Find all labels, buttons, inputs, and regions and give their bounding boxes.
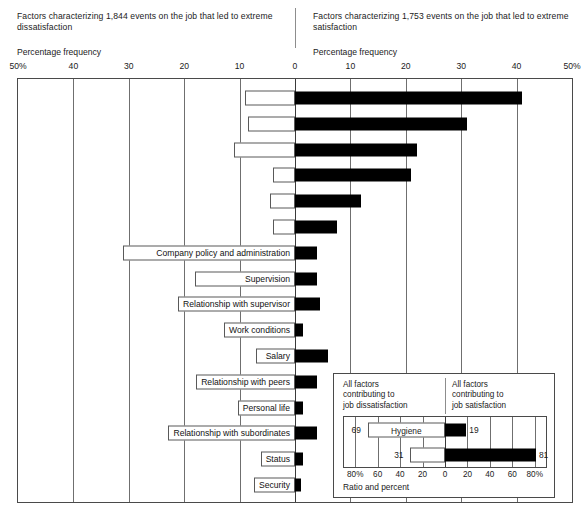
x-tick-30: 30 [456, 61, 466, 71]
x-tick-10: 10 [346, 61, 356, 71]
inset-x-tick-60: 60 [508, 470, 517, 479]
satisfaction-bar [295, 220, 337, 233]
dissatisfaction-bar: Relationship with subordinates [168, 426, 295, 441]
category-label: Company policy and administration [156, 248, 290, 257]
satisfaction-bar [295, 117, 467, 130]
header-divider [295, 8, 296, 48]
inset-summary-chart: All factors contributing to job dissatis… [333, 373, 555, 498]
chart-row: Work conditions [18, 317, 572, 343]
dissatisfaction-bar [270, 194, 295, 209]
inset-x-tick-60: 60 [373, 470, 382, 479]
chart-row: Relationship with supervisor [18, 292, 572, 318]
chart-row [18, 137, 572, 163]
inset-dissatisfaction-value: 31 [394, 450, 403, 460]
satisfaction-bar [295, 350, 328, 363]
x-tick-50%: 50% [9, 61, 26, 71]
category-label: Relationship with supervisor [183, 300, 290, 309]
inset-divider [445, 378, 446, 414]
inset-x-tick-80%: 80% [527, 470, 543, 479]
inset-satisfaction-bar [445, 424, 466, 437]
chart-row [18, 111, 572, 137]
satisfaction-bar [295, 195, 361, 208]
inset-row: 3181 [344, 442, 546, 468]
category-label: Salary [266, 352, 290, 361]
dissatisfaction-bar: Status [261, 452, 295, 467]
dissatisfaction-bar: Relationship with supervisor [178, 297, 295, 312]
x-tick-50%: 50% [563, 61, 580, 71]
left-axis-caption: Percentage frequency [17, 47, 101, 58]
x-tick-10: 10 [235, 61, 245, 71]
inset-row-label: Hygiene [391, 425, 422, 435]
inset-x-tick-0: 0 [443, 470, 448, 479]
x-tick-30: 30 [124, 61, 134, 71]
category-label: Work conditions [229, 326, 290, 335]
dissatisfaction-bar: Supervision [195, 271, 295, 286]
chart-row: Salary [18, 343, 572, 369]
chart-row [18, 85, 572, 111]
inset-x-axis-tick-labels: 80%604020020406080% [343, 470, 547, 481]
satisfaction-bar [295, 479, 301, 492]
x-tick-40: 40 [69, 61, 79, 71]
category-label: Status [266, 455, 290, 464]
inset-x-tick-40: 40 [396, 470, 405, 479]
x-tick-40: 40 [512, 61, 522, 71]
category-label: Relationship with peers [201, 377, 290, 386]
x-tick-20: 20 [179, 61, 189, 71]
chart-row: Supervision [18, 266, 572, 292]
category-label: Personal life [243, 403, 290, 412]
satisfaction-bar [295, 91, 522, 104]
dissatisfaction-bar [248, 116, 295, 131]
satisfaction-bar [295, 272, 317, 285]
category-label: Security [259, 481, 290, 490]
satisfaction-bar [295, 298, 320, 311]
inset-caption-left: All factors contributing to job dissatis… [343, 380, 408, 411]
satisfaction-bar [295, 169, 411, 182]
x-tick-20: 20 [401, 61, 411, 71]
dissatisfaction-bar [234, 142, 295, 157]
inset-dissatisfaction-bar [410, 448, 445, 463]
inset-axis-title: Ratio and percent [343, 482, 409, 492]
satisfaction-bar [295, 401, 303, 414]
category-label: Supervision [245, 274, 290, 283]
right-panel-title: Factors characterizing 1,753 events on t… [313, 11, 575, 33]
category-label: Relationship with subordinates [173, 429, 290, 438]
chart-row [18, 188, 572, 214]
inset-x-tick-20: 20 [418, 470, 427, 479]
right-axis-caption: Percentage frequency [313, 47, 397, 58]
inset-x-tick-20: 20 [463, 470, 472, 479]
x-axis-tick-labels: 50%4030201001020304050% [0, 61, 588, 74]
dissatisfaction-bar [273, 168, 295, 183]
dissatisfaction-bar: Salary [256, 349, 295, 364]
inset-dissatisfaction-bar: Hygiene [368, 423, 445, 438]
inset-caption-right: All factors contributing to job satisfac… [452, 380, 506, 411]
dissatisfaction-bar: Work conditions [224, 323, 295, 338]
left-panel-title: Factors characterizing 1,844 events on t… [17, 11, 277, 33]
dissatisfaction-bar: Company policy and administration [123, 245, 295, 260]
x-tick-0: 0 [293, 61, 298, 71]
satisfaction-bar [295, 453, 303, 466]
satisfaction-bar [295, 143, 417, 156]
inset-dissatisfaction-value: 69 [352, 425, 361, 435]
dissatisfaction-bar [245, 90, 295, 105]
inset-x-tick-80%: 80% [347, 470, 363, 479]
inset-plot-area: Hygiene69193181 [343, 416, 547, 468]
inset-row: Hygiene6919 [344, 417, 546, 443]
chart-row [18, 214, 572, 240]
satisfaction-bar [295, 246, 317, 259]
dissatisfaction-bar: Personal life [238, 400, 295, 415]
dissatisfaction-bar: Relationship with peers [196, 374, 295, 389]
inset-satisfaction-bar [445, 449, 536, 462]
inset-x-tick-40: 40 [485, 470, 494, 479]
satisfaction-bar [295, 375, 317, 388]
chart-row: Company policy and administration [18, 240, 572, 266]
inset-satisfaction-value: 81 [539, 450, 548, 460]
satisfaction-bar [295, 324, 303, 337]
chart-row [18, 162, 572, 188]
dissatisfaction-bar: Security [254, 478, 295, 493]
satisfaction-bar [295, 427, 317, 440]
inset-satisfaction-value: 19 [469, 425, 478, 435]
dissatisfaction-bar [273, 219, 295, 234]
